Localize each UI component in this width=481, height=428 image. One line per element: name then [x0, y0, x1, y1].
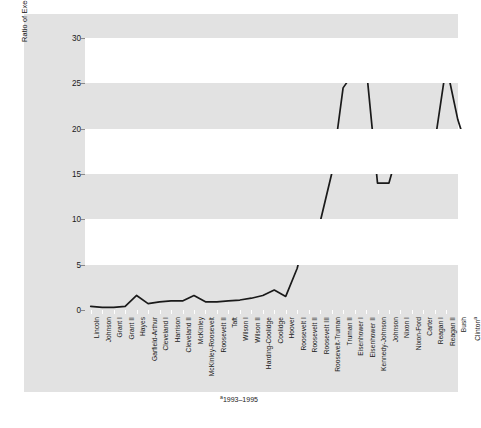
- x-tick-mark: [355, 310, 356, 314]
- x-tick-mark: [423, 310, 424, 314]
- x-tick-mark: [366, 310, 367, 314]
- x-tick-label: Wilson II: [254, 317, 261, 343]
- x-tick-mark: [297, 310, 298, 314]
- x-tick-mark: [91, 310, 92, 314]
- y-axis-ticks: 051015202530: [57, 38, 81, 310]
- x-tick-label: Eisenhower I: [357, 317, 364, 356]
- x-tick-label: Coolidge: [277, 317, 284, 343]
- x-tick-mark: [114, 310, 115, 314]
- x-tick-label: Truman II: [346, 317, 353, 345]
- x-tick-mark: [125, 310, 126, 314]
- x-tick-mark: [400, 310, 401, 314]
- x-tick-label: Clintona: [472, 317, 481, 341]
- x-tick-mark: [343, 310, 344, 314]
- x-tick-label: Kennedy-Johnson: [380, 317, 387, 371]
- x-tick-label: Reagan I: [437, 317, 444, 344]
- x-tick-mark: [458, 310, 459, 314]
- x-tick-mark: [309, 310, 310, 314]
- x-tick-mark: [228, 310, 229, 314]
- x-tick-mark: [389, 310, 390, 314]
- x-tick-label: McKinley-Roosevelt: [208, 317, 215, 376]
- x-tick-mark: [263, 310, 264, 314]
- grid-band: [85, 129, 475, 174]
- x-tick-label: Hoover: [288, 317, 295, 339]
- x-tick-label: Johnson: [105, 317, 112, 342]
- y-tick-label: 20: [59, 124, 81, 133]
- x-tick-mark: [435, 310, 436, 314]
- x-tick-label: Grant I: [116, 317, 123, 338]
- x-tick-label: Grant II: [128, 317, 135, 339]
- x-tick-label: Harding-Coolidge: [265, 317, 272, 369]
- footnote-text: 1993–1995: [223, 396, 258, 403]
- x-tick-label: Roosevelt-Truman: [334, 317, 341, 372]
- x-tick-label: Lincoln: [93, 317, 100, 338]
- x-tick-label: Nixon-Ford: [415, 317, 422, 350]
- x-tick-label: Reagan II: [449, 317, 456, 346]
- grid-band: [85, 219, 475, 264]
- x-tick-label: Nixon I: [403, 317, 410, 338]
- x-tick-label: Johnson: [392, 317, 399, 342]
- plot-area: [85, 38, 475, 310]
- x-tick-label: McKinley: [197, 317, 204, 344]
- x-tick-mark: [171, 310, 172, 314]
- x-tick-mark: [183, 310, 184, 314]
- x-tick-mark: [102, 310, 103, 314]
- x-tick-mark: [412, 310, 413, 314]
- x-tick-label: Garfield-Arthur: [151, 317, 158, 361]
- x-tick-label: Taft: [231, 317, 238, 328]
- y-tick-label: 5: [59, 260, 81, 269]
- x-tick-mark: [274, 310, 275, 314]
- x-tick-mark: [251, 310, 252, 314]
- x-tick-label: Roosevelt II: [311, 317, 318, 352]
- x-tick-label: Wilson I: [242, 317, 249, 341]
- x-axis-labels: LincolnJohnsonGrant IGrant IIHayesGarfie…: [85, 317, 475, 397]
- x-tick-mark: [446, 310, 447, 314]
- x-tick-mark: [148, 310, 149, 314]
- x-tick-label: Bush: [460, 317, 467, 332]
- data-series-line: [91, 65, 470, 307]
- y-tick-label: 25: [59, 79, 81, 88]
- x-tick-mark: [205, 310, 206, 314]
- y-tick-label: 15: [59, 170, 81, 179]
- x-tick-label: Carter: [426, 317, 433, 336]
- x-axis-ticks: [85, 310, 475, 315]
- x-tick-label: Eisenhower II: [369, 317, 376, 358]
- x-tick-label: Cleveland I: [162, 317, 169, 351]
- x-tick-label: Roosevelt I: [300, 317, 307, 351]
- x-tick-label: Hayes: [139, 317, 146, 336]
- x-tick-label: Harrison: [174, 317, 181, 342]
- x-tick-mark: [332, 310, 333, 314]
- y-tick-label: 0: [59, 306, 81, 315]
- grid-band: [85, 38, 475, 83]
- x-tick-mark: [217, 310, 218, 314]
- x-tick-mark: [469, 310, 470, 314]
- x-tick-mark: [240, 310, 241, 314]
- chart-panel: Ratio of Executive Agreements to Treatie…: [24, 14, 458, 392]
- y-axis-title: Ratio of Executive Agreements to Treatie…: [20, 0, 29, 42]
- x-tick-mark: [194, 310, 195, 314]
- x-tick-mark: [320, 310, 321, 314]
- x-tick-label: Cleveland II: [185, 317, 192, 352]
- y-tick-label: 30: [59, 34, 81, 43]
- x-tick-label: Roosevelt II: [220, 317, 227, 352]
- y-tick-label: 10: [59, 215, 81, 224]
- x-tick-mark: [378, 310, 379, 314]
- x-tick-label: Roosevelt III: [323, 317, 330, 354]
- x-tick-mark: [286, 310, 287, 314]
- x-tick-mark: [160, 310, 161, 314]
- x-tick-mark: [137, 310, 138, 314]
